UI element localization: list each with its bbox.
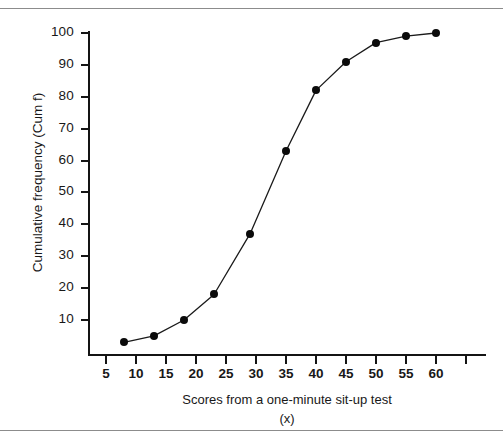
y-tick-label-wrap-100: 100 <box>0 24 74 40</box>
y-tick-60 <box>81 160 89 162</box>
cumulative-frequency-chart: 102030405060708090100 510152025303540455… <box>0 0 503 441</box>
y-tick-label-100: 100 <box>0 24 74 39</box>
x-tick-10 <box>135 356 137 364</box>
x-tick-55 <box>405 356 407 364</box>
data-point-2 <box>180 316 188 324</box>
data-point-6 <box>312 86 320 94</box>
x-tick-5 <box>105 356 107 364</box>
y-tick-20 <box>81 287 89 289</box>
y-tick-70 <box>81 128 89 130</box>
y-tick-label-wrap-10: 10 <box>0 311 74 327</box>
y-tick-30 <box>81 255 89 257</box>
x-tick-20 <box>195 356 197 364</box>
y-tick-80 <box>81 96 89 98</box>
x-tick-30 <box>255 356 257 364</box>
data-point-0 <box>120 338 128 346</box>
x-axis-line <box>88 354 486 356</box>
y-tick-label-wrap-90: 90 <box>0 56 74 72</box>
y-tick-100 <box>81 32 89 34</box>
data-point-4 <box>246 230 254 238</box>
figure-page: 102030405060708090100 510152025303540455… <box>0 0 503 441</box>
data-point-5 <box>282 147 290 155</box>
y-tick-40 <box>81 223 89 225</box>
x-axis-title: Scores from a one-minute sit-up test (x) <box>88 390 486 428</box>
y-tick-90 <box>81 64 89 66</box>
x-tick-25 <box>225 356 227 364</box>
data-point-1 <box>150 332 158 340</box>
x-tick-label-60: 60 <box>416 366 456 381</box>
figure-bottom-rule <box>0 430 503 431</box>
y-axis-line <box>88 31 90 356</box>
y-tick-50 <box>81 191 89 193</box>
data-point-10 <box>432 29 440 37</box>
x-tick-60 <box>435 356 437 364</box>
x-tick-35 <box>285 356 287 364</box>
data-point-8 <box>372 39 380 47</box>
x-axis-title-sub: (x) <box>88 409 486 428</box>
x-tick-45 <box>345 356 347 364</box>
data-point-3 <box>210 290 218 298</box>
x-tick-15 <box>165 356 167 364</box>
data-point-9 <box>402 32 410 40</box>
x-axis-title-main: Scores from a one-minute sit-up test <box>182 392 392 407</box>
y-tick-label-10: 10 <box>0 311 74 326</box>
data-point-7 <box>342 58 350 66</box>
x-tick-40 <box>315 356 317 364</box>
y-tick-label-90: 90 <box>0 56 74 71</box>
y-tick-10 <box>81 319 89 321</box>
y-axis-title: Cumulative frequency (Cum f) <box>30 73 45 293</box>
x-tick-50 <box>375 356 377 364</box>
x-tick-end <box>465 356 467 364</box>
